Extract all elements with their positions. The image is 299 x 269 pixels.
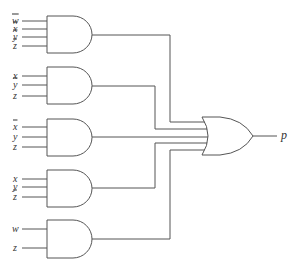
circuit-wiring (0, 0, 299, 269)
or-gate (202, 117, 253, 155)
and-gate-5 (47, 220, 92, 258)
routing-wires (92, 35, 209, 239)
input-label-g3-z: z (13, 142, 17, 152)
output-label: p (281, 129, 287, 141)
and-gate-1 (47, 16, 92, 53)
input-label-g5-z: z (13, 243, 17, 253)
input-label-g5-w: w (12, 224, 19, 234)
input-label-g1-z: z (13, 41, 17, 51)
input-label-g2-z: z (13, 91, 17, 101)
input-label-g4-z: z (13, 192, 17, 202)
input-wires (22, 21, 47, 248)
logic-circuit-diagram: w x y z x y z x y z x y z w z p (0, 0, 299, 269)
and-gate-3 (47, 119, 92, 156)
input-label-g2-y: y (13, 80, 17, 90)
and-gate-2 (47, 67, 92, 104)
and-gate-4 (47, 170, 92, 207)
